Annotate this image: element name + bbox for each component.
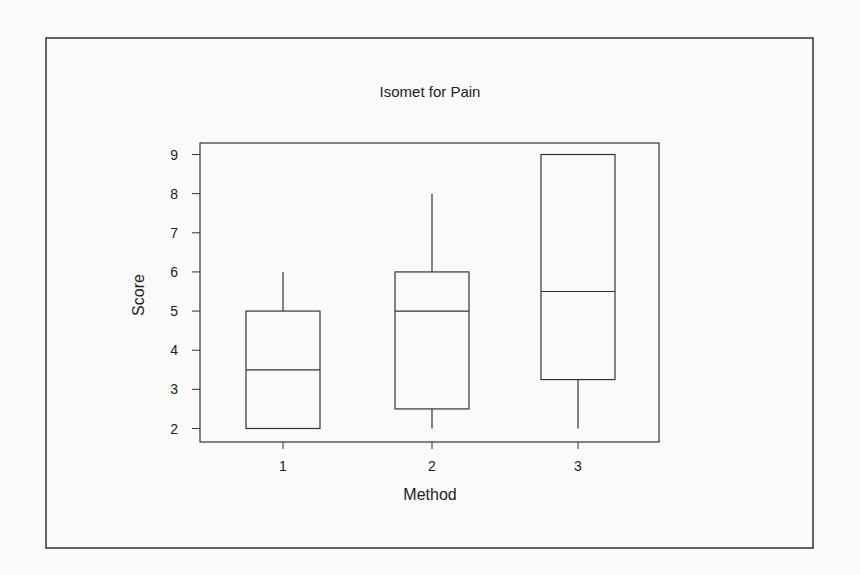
box-1	[246, 272, 320, 429]
chart: Isomet for Pain 23456789 123 Method Scor…	[0, 0, 860, 575]
y-tick-label: 8	[170, 186, 178, 202]
iqr-box	[541, 155, 615, 380]
x-axis-label: Method	[403, 486, 456, 503]
y-tick-label: 5	[170, 303, 178, 319]
plot-area	[200, 143, 659, 442]
box-2	[395, 194, 469, 429]
y-tick-label: 6	[170, 264, 178, 280]
x-axis: 123	[279, 442, 582, 474]
y-tick-label: 4	[170, 342, 178, 358]
chart-title: Isomet for Pain	[380, 83, 481, 100]
y-tick-label: 9	[170, 147, 178, 163]
y-tick-label: 3	[170, 381, 178, 397]
x-tick-label: 1	[279, 458, 287, 474]
box-3	[541, 155, 615, 429]
x-tick-label: 3	[574, 458, 582, 474]
boxes	[246, 155, 615, 429]
y-axis: 23456789	[170, 147, 200, 437]
y-tick-label: 7	[170, 225, 178, 241]
y-axis-label: Score	[130, 274, 147, 316]
x-tick-label: 2	[428, 458, 436, 474]
iqr-box	[395, 272, 469, 409]
y-tick-label: 2	[170, 421, 178, 437]
